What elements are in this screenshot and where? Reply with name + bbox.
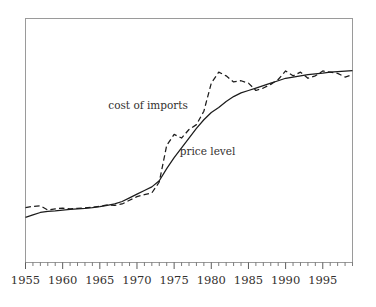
x-tick-label: 1960 <box>48 273 77 287</box>
x-axis-minor-ticks <box>33 263 353 267</box>
x-axis-tick-labels: 195519601965197019751980198519901995 <box>11 273 338 287</box>
plot-area: 195519601965197019751980198519901995 cos… <box>0 0 376 307</box>
annotation-label: price level <box>180 145 236 157</box>
chart-figure: 195519601965197019751980198519901995 cos… <box>0 0 376 307</box>
series-annotations: cost of importsprice level <box>108 99 236 157</box>
plot-frame <box>26 19 353 263</box>
x-tick-label: 1995 <box>308 273 337 287</box>
x-tick-label: 1965 <box>85 273 114 287</box>
x-tick-label: 1990 <box>271 273 300 287</box>
series-group <box>26 71 353 218</box>
annotation-label: cost of imports <box>108 99 188 111</box>
x-tick-label: 1970 <box>122 273 151 287</box>
x-tick-label: 1980 <box>197 273 226 287</box>
series-price-level <box>26 71 353 218</box>
series-cost-of-imports <box>26 71 353 210</box>
x-tick-label: 1955 <box>11 273 40 287</box>
x-tick-label: 1975 <box>159 273 188 287</box>
x-tick-label: 1985 <box>234 273 263 287</box>
